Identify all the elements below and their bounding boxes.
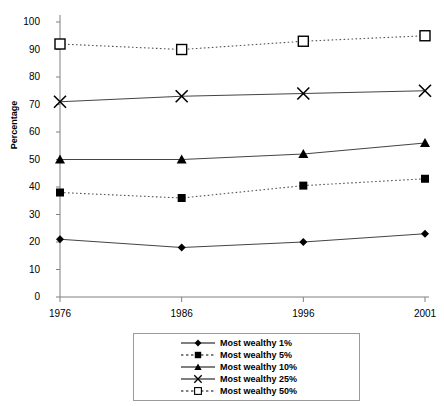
legend-item[interactable]: Most wealthy 25% bbox=[134, 373, 359, 385]
legend-item-label: Most wealthy 10% bbox=[216, 361, 297, 373]
legend-item[interactable]: Most wealthy 50% bbox=[134, 385, 359, 397]
series-2 bbox=[55, 138, 430, 164]
legend-item-label: Most wealthy 50% bbox=[216, 385, 297, 397]
series-1 bbox=[56, 175, 429, 202]
legend-marker-cross-icon bbox=[180, 373, 216, 385]
legend-marker-open-square-icon bbox=[180, 385, 216, 397]
legend: Most wealthy 1% Most wealthy 5% Most wea… bbox=[133, 333, 360, 401]
legend-item-label: Most wealthy 25% bbox=[216, 373, 297, 385]
series-4 bbox=[55, 31, 430, 55]
legend-item[interactable]: Most wealthy 10% bbox=[134, 361, 359, 373]
legend-marker-triangle-icon bbox=[180, 361, 216, 373]
legend-item[interactable]: Most wealthy 1% bbox=[134, 337, 359, 349]
series-0 bbox=[56, 230, 429, 252]
legend-item[interactable]: Most wealthy 5% bbox=[134, 349, 359, 361]
legend-marker-filled-square-icon bbox=[180, 349, 216, 361]
legend-item-label: Most wealthy 5% bbox=[216, 349, 292, 361]
legend-item-label: Most wealthy 1% bbox=[216, 337, 292, 349]
series-3 bbox=[54, 85, 431, 108]
line-chart: Percentage 1009080706050403020100 197619… bbox=[0, 0, 444, 406]
legend-marker-diamond-icon bbox=[180, 337, 216, 349]
